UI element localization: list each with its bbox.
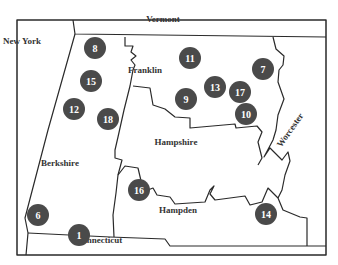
marker-1: 1 bbox=[68, 224, 90, 246]
marker-13: 13 bbox=[204, 76, 226, 98]
region-label-berkshire: Berkshire bbox=[41, 158, 79, 168]
marker-17: 17 bbox=[229, 81, 251, 103]
marker-6: 6 bbox=[27, 204, 49, 226]
marker-18: 18 bbox=[97, 108, 119, 130]
marker-15: 15 bbox=[80, 70, 102, 92]
region-label-hampshire: Hampshire bbox=[155, 137, 198, 147]
marker-8: 8 bbox=[84, 37, 106, 59]
marker-10: 10 bbox=[235, 103, 257, 125]
marker-7: 7 bbox=[252, 58, 274, 80]
marker-11: 11 bbox=[179, 47, 201, 69]
region-label-new-york: New York bbox=[3, 36, 41, 46]
marker-12: 12 bbox=[63, 98, 85, 120]
marker-16: 16 bbox=[128, 179, 150, 201]
region-label-franklin: Franklin bbox=[128, 65, 162, 75]
marker-9: 9 bbox=[175, 88, 197, 110]
region-label-vermont: Vermont bbox=[146, 14, 180, 24]
marker-14: 14 bbox=[255, 203, 277, 225]
region-label-hampden: Hampden bbox=[159, 205, 197, 215]
